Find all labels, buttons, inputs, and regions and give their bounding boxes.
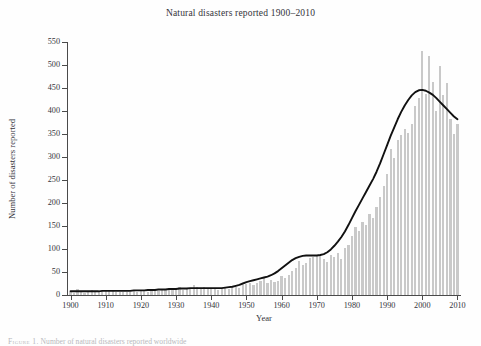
figure-container: Natural disasters reported 1900–2010 Num… [0, 0, 481, 346]
x-tick [176, 295, 177, 300]
y-tick [62, 157, 67, 158]
y-tick-label: 500 [48, 61, 60, 69]
x-tick-label: 1960 [273, 302, 289, 310]
y-tick-label: 350 [48, 130, 60, 138]
y-tick [62, 42, 67, 43]
x-axis-label: Year [67, 313, 461, 323]
x-tick-label: 1990 [379, 302, 395, 310]
x-tick [106, 295, 107, 300]
x-tick-label: 2010 [449, 302, 465, 310]
y-axis-label-text: Number of disasters reported [7, 119, 17, 219]
x-tick-label: 1980 [344, 302, 360, 310]
y-tick-label: 550 [48, 38, 60, 46]
figure-caption: Figure 1. Number of natural disasters re… [8, 337, 478, 346]
x-tick [246, 295, 247, 300]
y-tick [62, 180, 67, 181]
y-tick-label: 400 [48, 107, 60, 115]
x-tick [457, 295, 458, 300]
figure-number: Figure 1. [8, 337, 39, 346]
trend-line-group [67, 42, 461, 295]
x-tick-label: 1970 [309, 302, 325, 310]
y-tick [62, 111, 67, 112]
y-tick [62, 65, 67, 66]
trend-line [71, 90, 458, 291]
y-tick [62, 226, 67, 227]
x-tick [141, 295, 142, 300]
x-tick [71, 295, 72, 300]
x-tick-label: 1920 [133, 302, 149, 310]
x-tick-label: 1910 [98, 302, 114, 310]
y-tick [62, 203, 67, 204]
x-tick [317, 295, 318, 300]
x-axis-line [67, 295, 461, 296]
y-axis-label: Number of disasters reported [6, 42, 18, 295]
y-tick [62, 249, 67, 250]
x-tick [352, 295, 353, 300]
y-tick-label: 200 [48, 199, 60, 207]
y-tick-label: 0 [56, 291, 60, 299]
y-tick-label: 50 [52, 268, 60, 276]
figure-caption-text: Number of natural disasters reported wor… [41, 337, 187, 346]
x-tick [211, 295, 212, 300]
y-tick [62, 134, 67, 135]
x-tick [422, 295, 423, 300]
x-tick [387, 295, 388, 300]
y-tick [62, 295, 67, 296]
y-tick-label: 300 [48, 153, 60, 161]
y-tick [62, 88, 67, 89]
x-tick-label: 1930 [168, 302, 184, 310]
x-tick-label: 2000 [414, 302, 430, 310]
y-tick-label: 250 [48, 176, 60, 184]
chart-title: Natural disasters reported 1900–2010 [0, 8, 481, 18]
y-tick-label: 450 [48, 84, 60, 92]
plot-area: 050100150200250300350400450500550 190019… [67, 42, 461, 295]
x-tick [282, 295, 283, 300]
x-tick-label: 1940 [203, 302, 219, 310]
x-tick-label: 1950 [238, 302, 254, 310]
y-tick [62, 272, 67, 273]
y-tick-label: 100 [48, 245, 60, 253]
y-tick-label: 150 [48, 222, 60, 230]
x-tick-label: 1900 [62, 302, 78, 310]
